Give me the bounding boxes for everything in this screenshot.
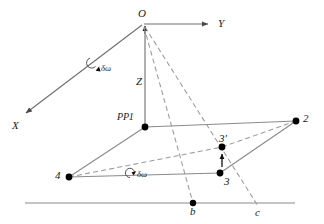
label-point-3: 3 (224, 176, 230, 187)
axis-x-line (26, 25, 142, 113)
label-point-3-prime: 3' (219, 133, 227, 144)
node-dot-3 (217, 170, 224, 177)
edge-3-2 (220, 121, 296, 173)
label-rotation-lower-delta-omega: δω (137, 170, 147, 179)
label-axis-z: Z (136, 76, 142, 87)
label-axis-y: Y (218, 18, 224, 29)
node-dot-pp1 (142, 124, 149, 131)
dashed-ray-o-c (145, 27, 258, 206)
label-axis-x: X (12, 120, 19, 131)
node-dot-4 (66, 174, 73, 181)
node-dot-3-prime (219, 144, 226, 151)
diagram-canvas: O Y X Z PP1 δω δω 2 3 3' 4 b c (0, 0, 324, 224)
node-dot-2 (293, 118, 300, 125)
dashed-edge-3prime-2 (222, 121, 296, 147)
edge-pp1-2 (145, 121, 296, 127)
diagram-vector-layer (0, 0, 324, 224)
label-principal-point-pp1: PP1 (117, 112, 134, 122)
label-point-4: 4 (55, 170, 61, 181)
label-point-2: 2 (303, 113, 309, 124)
label-point-c: c (255, 207, 260, 218)
label-rotation-upper-delta-omega: δω (101, 64, 111, 73)
label-point-b: b (190, 206, 196, 217)
dashed-ray-o-b (144, 27, 193, 203)
rotation-arrowhead-upper-icon (96, 67, 101, 72)
label-origin-o: O (138, 8, 146, 19)
